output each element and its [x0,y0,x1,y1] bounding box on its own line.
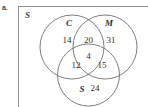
figure-frame: S C M S 14 20 31 12 4 15 24 [18,6,148,107]
venn-circle-s [58,44,120,106]
venn-circle-c [40,15,104,79]
venn-circle-m [73,15,137,79]
item-letter-label: a. [2,4,7,12]
venn-diagram: C M S 14 20 31 12 4 15 24 [19,7,148,107]
venn-circles-svg [19,7,148,107]
figure-screenshot: a. S C M S 14 20 31 12 4 15 [0,0,148,107]
